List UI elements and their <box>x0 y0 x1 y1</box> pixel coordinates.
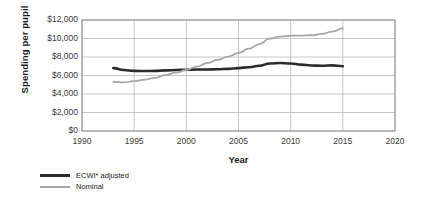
x-axis-tick-label: 2020 <box>375 136 415 146</box>
legend-item-ecwi-adjusted: ECWI* adjusted <box>40 170 129 181</box>
gridlines <box>82 20 395 131</box>
x-axis-tick-label: 2000 <box>166 136 206 146</box>
legend-swatch-icon <box>40 174 70 177</box>
series-line <box>113 28 343 82</box>
legend-swatch-icon <box>40 186 70 188</box>
series-lines <box>113 28 343 82</box>
x-axis-tick-label: 2015 <box>323 136 363 146</box>
x-axis-title: Year <box>82 154 395 165</box>
chart-legend: ECWI* adjusted Nominal <box>40 170 129 192</box>
legend-label: ECWI* adjusted <box>76 171 129 180</box>
x-axis-tick-label: 2005 <box>219 136 259 146</box>
spending-per-pupil-chart: Spending per pupil $0$2,000$4,000$6,000$… <box>0 0 425 205</box>
legend-label: Nominal <box>76 182 104 191</box>
x-axis-tick-label: 1990 <box>62 136 102 146</box>
x-axis-tick-label: 2010 <box>271 136 311 146</box>
x-axis-tick-label: 1995 <box>114 136 154 146</box>
legend-item-nominal: Nominal <box>40 181 129 192</box>
series-line <box>113 63 343 71</box>
